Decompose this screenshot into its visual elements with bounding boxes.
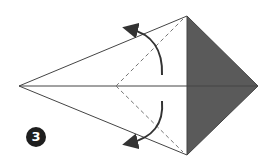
fold-arrow-up-icon — [130, 29, 162, 75]
valley-fold-bottom — [116, 86, 183, 152]
step-number-badge: 3 — [26, 127, 46, 147]
valley-fold-top — [116, 19, 183, 86]
fold-arrow-down-icon — [130, 101, 162, 143]
